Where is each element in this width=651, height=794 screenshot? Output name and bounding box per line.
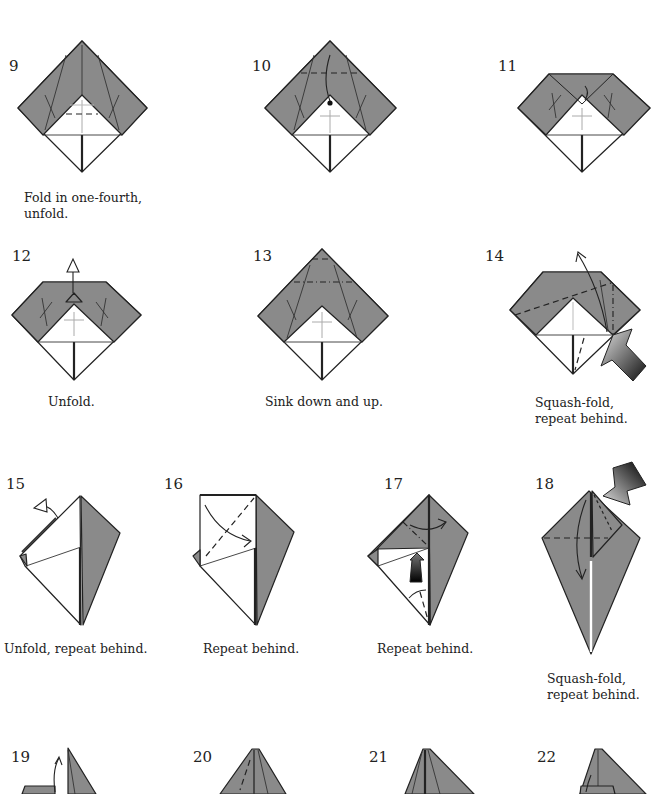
step-number: 11 xyxy=(498,57,517,75)
step-number: 18 xyxy=(535,475,554,493)
step-number: 9 xyxy=(9,57,19,75)
caption-line: Squash-fold, xyxy=(535,395,628,411)
step-22-diagram xyxy=(0,0,1,1)
step-number: 22 xyxy=(537,748,556,766)
step-18-caption: Squash-fold, repeat behind. xyxy=(547,671,640,703)
step-14-caption: Squash-fold, repeat behind. xyxy=(535,395,628,427)
caption-line: Unfold, repeat behind. xyxy=(4,641,147,657)
step-number: 17 xyxy=(384,475,403,493)
caption-line: Repeat behind. xyxy=(377,641,473,657)
step-number: 10 xyxy=(252,57,271,75)
step-number: 13 xyxy=(253,247,272,265)
step-9-caption: Fold in one-fourth, unfold. xyxy=(24,190,142,222)
step-number: 21 xyxy=(369,748,388,766)
caption-line: repeat behind. xyxy=(535,411,628,427)
step-number: 19 xyxy=(11,748,30,766)
step-number: 14 xyxy=(485,247,504,265)
step-number: 15 xyxy=(6,475,25,493)
step-12-caption: Unfold. xyxy=(48,394,95,410)
step-number: 16 xyxy=(164,475,183,493)
caption-line: repeat behind. xyxy=(547,687,640,703)
caption-line: Fold in one-fourth, xyxy=(24,190,142,206)
caption-line: Repeat behind. xyxy=(203,641,299,657)
caption-line: unfold. xyxy=(24,206,142,222)
caption-line: Squash-fold, xyxy=(547,671,640,687)
step-number: 20 xyxy=(193,748,212,766)
step-13-caption: Sink down and up. xyxy=(265,394,383,410)
step-17-caption: Repeat behind. xyxy=(377,641,473,657)
caption-line: Unfold. xyxy=(48,394,95,410)
caption-line: Sink down and up. xyxy=(265,394,383,410)
step-16-caption: Repeat behind. xyxy=(203,641,299,657)
step-15-caption: Unfold, repeat behind. xyxy=(4,641,147,657)
step-number: 12 xyxy=(12,247,31,265)
